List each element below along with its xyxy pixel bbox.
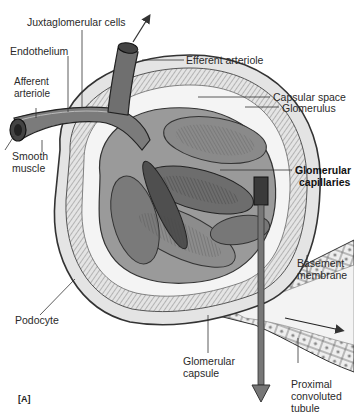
label-proximal-tubule-line2: convoluted (291, 390, 342, 402)
label-proximal-tubule-line1: Proximal (291, 378, 342, 390)
label-basement-membrane-line2: membrane (297, 269, 347, 281)
label-basement-membrane: Basement membrane (297, 257, 347, 281)
label-glomerular-capillaries-line1: Glomerular (295, 164, 351, 176)
label-glomerular-capillaries-line2: capillaries (295, 176, 351, 188)
label-afferent-arteriole-line2: arteriole (14, 88, 50, 100)
renal-corpuscle-illustration (0, 0, 354, 415)
panel-label: [A] (18, 394, 31, 404)
label-podocyte: Podocyte (15, 314, 59, 326)
label-proximal-convoluted-tubule: Proximal convoluted tubule (291, 378, 342, 414)
label-smooth-muscle: Smooth muscle (12, 150, 48, 174)
label-efferent-arteriole: Efferent arteriole (186, 54, 263, 66)
label-glomerulus: Glomerulus (282, 102, 336, 114)
label-glomerular-capsule-line2: capsule (183, 367, 235, 379)
label-proximal-tubule-line3: tubule (291, 402, 342, 414)
label-juxtaglomerular-cells: Juxtaglomerular cells (27, 16, 126, 28)
label-glomerular-capsule: Glomerular capsule (183, 355, 235, 379)
glomerular-capillary-tuft (99, 108, 276, 283)
label-smooth-muscle-line1: Smooth (12, 150, 48, 162)
label-afferent-arteriole-line1: Afferent (14, 76, 50, 88)
label-glomerular-capsule-line1: Glomerular (183, 355, 235, 367)
label-basement-membrane-line1: Basement (297, 257, 347, 269)
label-smooth-muscle-line2: muscle (12, 162, 48, 174)
label-afferent-arteriole: Afferent arteriole (14, 76, 50, 100)
label-glomerular-capillaries: Glomerular capillaries (295, 164, 351, 188)
label-endothelium: Endothelium (10, 45, 68, 57)
